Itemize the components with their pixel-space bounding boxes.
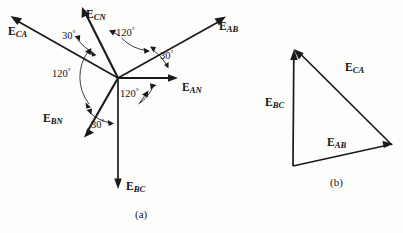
label-ecn-subscript: CN: [94, 12, 106, 22]
angle-label-30-lower: 30°: [91, 119, 105, 131]
angle-120-left-value: 120: [52, 68, 68, 79]
caption-a: (a): [135, 209, 147, 220]
label-ebc-a: EBC: [126, 181, 145, 193]
label-ebn-symbol: E: [43, 112, 51, 124]
caption-b: (b): [330, 177, 343, 188]
label-ebc-b-subscript: BC: [273, 100, 285, 110]
angle-30-right-value: 30: [160, 50, 171, 61]
label-eab-b: EAB: [327, 137, 346, 149]
label-ebc-a-symbol: E: [126, 180, 134, 192]
label-ebn-subscript: BN: [51, 116, 63, 126]
label-eab-a-subscript: AB: [227, 24, 239, 34]
label-ean: EAN: [182, 82, 202, 94]
label-ean-symbol: E: [182, 81, 190, 93]
label-eca-a-symbol: E: [8, 25, 16, 37]
angle-label-120-top: 120°: [116, 27, 135, 39]
angle-label-120-left: 120°: [52, 68, 71, 80]
angle-120-left-unit: °: [68, 67, 71, 76]
arc-120-bottom: [139, 83, 157, 104]
label-eab-b-symbol: E: [327, 136, 335, 148]
label-eab-b-subscript: AB: [335, 140, 347, 150]
angle-120-bottom-unit: °: [136, 87, 139, 96]
angle-120-top-value: 120: [116, 27, 132, 38]
angle-30-right-unit: °: [171, 49, 174, 58]
angle-label-30-upper-left: 30°: [62, 30, 76, 42]
label-eab-a-symbol: E: [219, 20, 227, 32]
label-eab-a: EAB: [219, 21, 238, 33]
angle-30-upper-left-value: 30: [62, 30, 73, 41]
angle-30-lower-unit: °: [102, 118, 105, 127]
triangle-phasor-ebc: [290, 50, 298, 167]
phasor-figure: EAN ECN EBN EAB ECA EBC 30° 30° 30° 120°…: [0, 0, 403, 233]
label-eca-b-subscript: CA: [353, 65, 365, 75]
label-ean-subscript: AN: [190, 85, 202, 95]
label-eca-a-subscript: CA: [16, 29, 28, 39]
angle-30-lower-value: 30: [91, 119, 102, 130]
label-eca-b-symbol: E: [345, 61, 353, 73]
label-eca-a: ECA: [8, 26, 27, 38]
angle-120-bottom-value: 120: [120, 88, 136, 99]
angle-label-30-right: 30°: [160, 50, 174, 62]
label-ecn: ECN: [86, 9, 106, 21]
label-ebc-b: EBC: [265, 97, 284, 109]
label-ebc-a-subscript: BC: [134, 184, 146, 194]
label-ecn-symbol: E: [86, 8, 94, 20]
arc-30-upper-left: [75, 35, 97, 57]
triangle-phasor-eca: [294, 49, 393, 145]
angle-30-upper-left-unit: °: [73, 29, 76, 38]
label-ebn: EBN: [43, 113, 63, 125]
label-ebc-b-symbol: E: [265, 96, 273, 108]
angle-label-120-bottom: 120°: [120, 88, 139, 100]
label-eca-b: ECA: [345, 62, 364, 74]
angle-120-top-unit: °: [132, 26, 135, 35]
phasor-ean: [118, 74, 178, 82]
